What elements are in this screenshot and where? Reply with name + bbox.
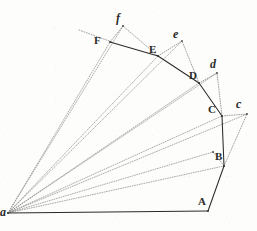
offset-D-d [199, 73, 217, 83]
vertex-marker-a [7, 212, 9, 214]
point-label-d: d [210, 58, 216, 70]
point-label-C: C [208, 104, 216, 115]
point-label-D: D [189, 70, 197, 81]
point-label-B: B [215, 151, 222, 162]
point-label-F: F [94, 35, 101, 46]
offset-F-f [110, 26, 123, 42]
vertex-marker-D [198, 82, 200, 84]
vertex-marker-b [212, 151, 214, 153]
ray-a-B [8, 166, 224, 213]
offset-segment-group [110, 26, 247, 166]
vertex-marker-C [221, 115, 223, 117]
vertex-marker-e [181, 40, 183, 42]
figure-canvas [0, 0, 257, 231]
point-label-E: E [149, 44, 156, 55]
vertex-marker-A [207, 210, 209, 212]
traverse-outline-group [8, 42, 224, 213]
ray-a-C [8, 116, 222, 213]
edge-a-A [8, 211, 208, 213]
point-label-a: a [0, 206, 6, 218]
ray-a-f [8, 26, 123, 213]
point-label-f: f [116, 12, 120, 24]
ray-a-d [8, 73, 217, 213]
point-label-e: e [173, 28, 178, 40]
ray-a-E [8, 56, 158, 213]
vertex-marker-d [216, 72, 218, 74]
radial-ray-group [8, 26, 247, 213]
ray-a-F [8, 42, 110, 213]
point-label-A: A [198, 196, 206, 207]
edge-A-B [208, 166, 224, 211]
geometric-figure: aABCDEFcdef [0, 0, 257, 231]
ray-a-c [8, 114, 247, 213]
vertex-marker-group [7, 25, 248, 214]
offset-E-e [158, 41, 182, 56]
point-label-c: c [236, 98, 241, 110]
vertex-marker-B [223, 165, 225, 167]
vertex-marker-c [246, 113, 248, 115]
vertex-marker-f [122, 25, 124, 27]
vertex-marker-E [157, 55, 159, 57]
vertex-marker-F [109, 41, 111, 43]
